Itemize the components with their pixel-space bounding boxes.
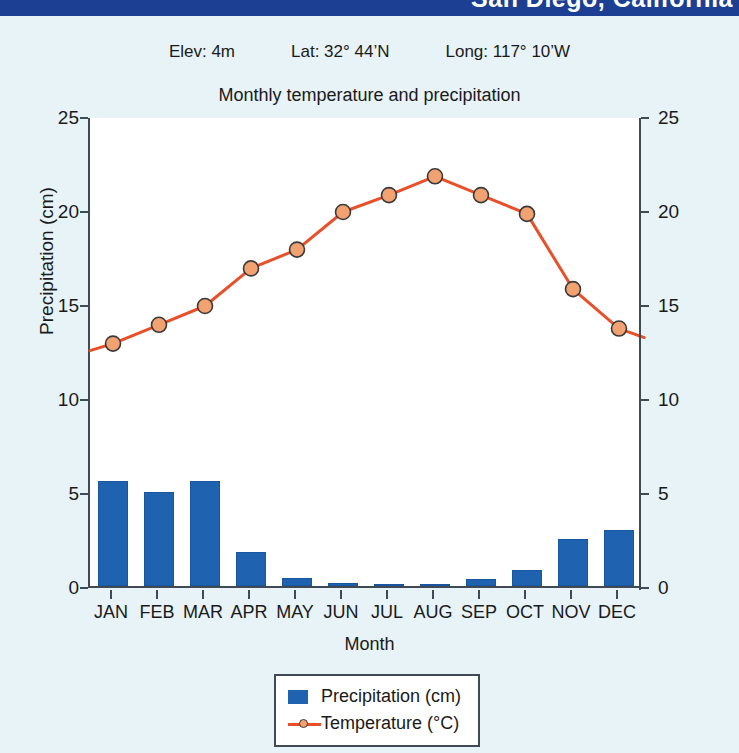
x-tick-mark [432,590,434,599]
x-tick-mark [340,590,342,599]
temperature-marker-apr: APR: 17 °C [244,261,259,276]
x-axis-label: Month [0,634,739,655]
temperature-marker-jul: JUL: 20.9 °C [382,188,397,203]
y-tick-mark-left [80,587,88,589]
temperature-marker-jun: JUN: 20 °C [336,205,351,220]
x-tick-mark [570,590,572,599]
y-tick-mark-right [641,305,649,307]
y-tick-label-left: 5 [19,483,79,505]
x-tick-mark [294,590,296,599]
y-tick-label-right: 20 [658,201,718,223]
y-tick-label-right: 15 [658,295,718,317]
temperature-marker-feb: FEB: 14 °C [152,317,167,332]
temperature-marker-mar: MAR: 15 °C [198,299,213,314]
longitude-value: Long: 117° 10’W [446,42,571,62]
temperature-line [90,176,644,350]
temperature-line-series: JAN: 13 °CFEB: 14 °CMAR: 15 °CAPR: 17 °C… [90,118,642,588]
x-tick-mark [202,590,204,599]
legend-label-temperature: Temperature (°C) [321,713,459,734]
y-tick-mark-left [80,211,88,213]
x-tick-mark [110,590,112,599]
title-banner: San Diego, California [0,0,739,16]
y-tick-label-right: 25 [658,107,718,129]
x-tick-mark [524,590,526,599]
legend-bar-swatch-icon [288,690,308,704]
x-tick-mark [616,590,618,599]
y-tick-label-right: 10 [658,389,718,411]
temperature-marker-nov: NOV: 15.9 °C [566,282,581,297]
y-tick-label-right: 0 [658,577,718,599]
legend-line-marker-icon [288,717,321,731]
y-tick-mark-right [641,211,649,213]
plot-inner: JAN: 13 °CFEB: 14 °CMAR: 15 °CAPR: 17 °C… [90,118,640,586]
legend-item-temperature: Temperature (°C) [288,710,466,737]
x-tick-mark [478,590,480,599]
x-tick-mark [156,590,158,599]
y-axis-label-left: Precipitation (cm) [36,161,58,361]
chart-legend: Precipitation (cm) Temperature (°C) [274,674,480,747]
temperature-marker-jan: JAN: 13 °C [106,336,121,351]
chart-subtitle: Monthly temperature and precipitation [0,85,739,106]
y-tick-mark-left [80,305,88,307]
right-axis-line [639,118,641,590]
temperature-marker-may: MAY: 18 °C [290,242,305,257]
y-tick-mark-right [641,399,649,401]
y-tick-mark-left [80,117,88,119]
y-tick-mark-left [80,493,88,495]
y-tick-label-right: 5 [658,483,718,505]
banner-title: San Diego, California [471,0,733,13]
temperature-marker-aug: AUG: 21.9 °C [428,169,443,184]
y-tick-label-left: 10 [19,389,79,411]
location-metadata: Elev: 4m Lat: 32° 44’N Long: 117° 10’W [0,42,739,62]
x-tick-label-dec: DEC [587,602,647,623]
chart-plot-area: JAN: 13 °CFEB: 14 °CMAR: 15 °CAPR: 17 °C… [88,118,640,588]
y-tick-label-left: 0 [19,577,79,599]
legend-label-precipitation: Precipitation (cm) [321,686,461,707]
temperature-marker-sep: SEP: 20.9 °C [474,188,489,203]
latitude-value: Lat: 32° 44’N [291,42,389,62]
x-tick-mark [386,590,388,599]
elevation-value: Elev: 4m [169,42,235,62]
temperature-marker-oct: OCT: 19.9 °C [520,206,535,221]
y-tick-label-left: 25 [19,107,79,129]
y-tick-mark-right [641,587,649,589]
temperature-marker-dec: DEC: 13.8 °C [612,321,627,336]
y-tick-mark-right [641,117,649,119]
x-tick-mark [248,590,250,599]
y-tick-mark-right [641,493,649,495]
y-tick-mark-left [80,399,88,401]
legend-item-precipitation: Precipitation (cm) [288,683,466,710]
